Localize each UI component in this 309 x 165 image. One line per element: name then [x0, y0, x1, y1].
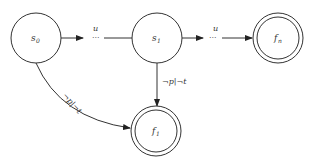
- edge-dots: ···: [92, 33, 100, 42]
- node-s1: s 1: [132, 13, 182, 63]
- node-subscript: 1: [157, 37, 161, 44]
- edge-dots: ···: [209, 33, 217, 42]
- node-f1: f 1: [131, 106, 181, 156]
- node-fn: f n: [253, 13, 303, 63]
- state-diagram: ··· u ··· u ¬p|¬t ¬p|¬t s 0 s 1 f n: [0, 0, 309, 165]
- edge-s1-f1: ¬p|¬t: [157, 63, 187, 106]
- edge-label: ¬p|¬t: [162, 77, 187, 86]
- edge-s1-fn: ··· u: [182, 24, 252, 42]
- node-subscript: 1: [156, 130, 160, 137]
- edge-label: u: [93, 24, 98, 33]
- node-s0: s 0: [11, 13, 61, 63]
- edge-s0-f1: ¬p|¬t: [36, 63, 130, 128]
- node-subscript: 0: [36, 37, 40, 44]
- edge-label: u: [213, 24, 218, 33]
- node-subscript: n: [278, 37, 282, 44]
